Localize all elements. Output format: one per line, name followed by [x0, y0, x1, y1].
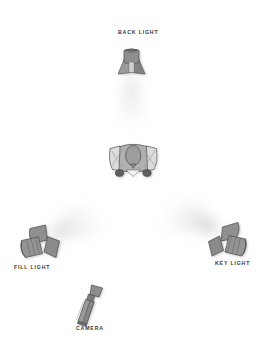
- subject-left-hand: [115, 170, 123, 177]
- back-light-lens: [129, 62, 134, 73]
- lighting-diagram-graphic: [0, 0, 266, 347]
- back-light-beam: [112, 72, 152, 138]
- key-light-label: KEY LIGHT: [215, 261, 250, 266]
- fill-light-beam: [47, 192, 112, 238]
- subject-head: [126, 146, 141, 166]
- fill-light-label: FILL LIGHT: [14, 265, 50, 270]
- fill-light-housing: [21, 237, 43, 258]
- subject-chest-highlight: [126, 170, 141, 177]
- back-light-housing: [124, 49, 139, 63]
- subject-right-hand: [143, 170, 151, 177]
- camera-label: CAMERA: [76, 326, 104, 331]
- subject-figure: [109, 144, 157, 176]
- fill-light-fixture: [21, 225, 60, 258]
- back-light-top-cap: [125, 49, 138, 51]
- key-light-beam: [152, 187, 222, 233]
- lighting-diagram-canvas: BACK LIGHT FILL LIGHT KEY LIGHT CAMERA: [0, 0, 266, 347]
- back-light-fixture: [118, 49, 145, 74]
- back-light-label: BACK LIGHT: [118, 30, 159, 35]
- camera-fixture: [77, 285, 103, 326]
